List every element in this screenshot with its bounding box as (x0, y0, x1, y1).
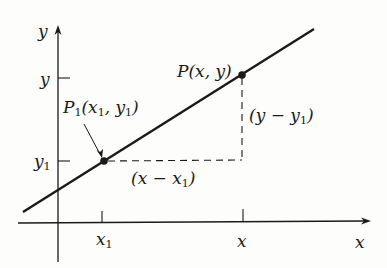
point-label-p: P(x, y) (177, 63, 232, 80)
p1-callout-line (84, 124, 100, 154)
run-label-pre: (x − x (131, 168, 182, 188)
x-axis (18, 221, 365, 223)
p1-name: P (63, 97, 74, 117)
run-label-sub: 1 (182, 177, 189, 190)
tick-label-x1: x1 (96, 231, 113, 250)
tick-label-y: y (40, 71, 50, 88)
tick-label-y1: y1 (34, 153, 51, 172)
tick-label-y1-base: y (34, 151, 44, 171)
p1-coords-mid: , y (105, 97, 125, 117)
x-axis-label: x (355, 234, 365, 251)
tick-label-x1-sub: 1 (106, 238, 113, 251)
run-dashed-segment (108, 160, 242, 161)
p1-coords-close: ) (132, 97, 139, 117)
point-p1 (100, 157, 108, 165)
rise-label: (y − y1) (249, 107, 314, 126)
y-axis-label: y (38, 23, 48, 40)
tick-label-x: x (237, 233, 247, 250)
tick-label-y1-sub: 1 (44, 160, 51, 173)
rise-label-sub: 1 (300, 114, 307, 127)
rise-label-pre: (y − y (249, 105, 300, 125)
p1-callout-arrow-icon (97, 149, 104, 158)
run-label-post: ) (189, 168, 196, 188)
p1-coords-open: (x (81, 97, 97, 117)
diagram-canvas (0, 0, 387, 268)
tick-label-x1-base: x (96, 229, 106, 249)
line-diagram: y x y y1 x1 x P1(x1, y1) P(x, y) (x − x1… (0, 0, 387, 268)
run-label: (x − x1) (131, 170, 196, 189)
point-p (238, 71, 246, 79)
rise-label-post: ) (307, 105, 314, 125)
p1-coords-sub1: 1 (98, 106, 105, 119)
point-label-p1: P1(x1, y1) (63, 99, 139, 118)
